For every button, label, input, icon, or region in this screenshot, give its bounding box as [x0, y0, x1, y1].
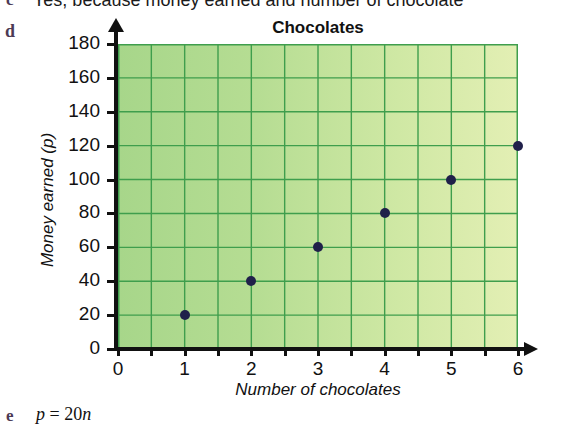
variable-p: p — [36, 404, 45, 424]
x-axis-tick-label: 0 — [98, 358, 138, 380]
x-axis-tick — [150, 348, 153, 356]
x-axis-tick-label: 3 — [298, 358, 338, 380]
y-axis-tick — [107, 246, 116, 249]
y-axis-tick-label: 160 — [38, 66, 100, 88]
worksheet-line-e: e p = 20n — [0, 404, 565, 432]
x-axis-tick — [350, 348, 353, 356]
grid-lines — [118, 44, 518, 349]
x-axis-tick — [517, 348, 520, 356]
y-axis-arrow-icon — [108, 18, 124, 32]
list-marker-e: e — [6, 406, 14, 426]
y-axis-tick-label: 180 — [38, 32, 100, 54]
y-axis-tick — [107, 212, 116, 215]
x-axis-tick-label: 2 — [231, 358, 271, 380]
y-axis-tick — [107, 348, 116, 351]
x-axis-tick — [450, 348, 453, 356]
worksheet-answer-e: p = 20n — [36, 404, 91, 425]
x-axis-tick — [484, 348, 487, 356]
x-axis-tick — [317, 348, 320, 356]
y-axis-tick — [107, 280, 116, 283]
y-axis-tick — [107, 314, 116, 317]
x-axis-tick — [184, 348, 187, 356]
x-axis-tick — [117, 348, 120, 356]
equals-twenty: = 20 — [45, 404, 82, 424]
y-axis-tick-label: 0 — [38, 337, 100, 359]
x-axis-tick — [417, 348, 420, 356]
x-axis-tick — [250, 348, 253, 356]
x-axis-tick-label: 5 — [431, 358, 471, 380]
y-axis-tick — [107, 77, 116, 80]
x-axis-tick-label: 1 — [165, 358, 205, 380]
x-axis-tick-label: 4 — [365, 358, 405, 380]
y-axis-tick — [107, 111, 116, 114]
x-axis-tick-label: 6 — [498, 358, 538, 380]
data-point — [180, 310, 190, 320]
chart-title: Chocolates — [118, 18, 518, 38]
data-point — [513, 141, 523, 151]
y-axis-title: Money earned (p) — [38, 90, 58, 310]
y-axis-tick — [107, 179, 116, 182]
variable-n: n — [82, 404, 91, 424]
x-axis-title: Number of chocolates — [118, 380, 518, 400]
plot-area — [118, 44, 518, 349]
data-point — [446, 175, 456, 185]
y-axis-tick — [107, 145, 116, 148]
x-axis-tick — [284, 348, 287, 356]
y-axis-tick — [107, 43, 116, 46]
x-axis-tick — [217, 348, 220, 356]
x-axis-arrow-icon — [524, 342, 538, 356]
scatter-chart: Chocolates 020406080100120140160180 0123… — [0, 0, 565, 400]
x-axis-tick — [384, 348, 387, 356]
